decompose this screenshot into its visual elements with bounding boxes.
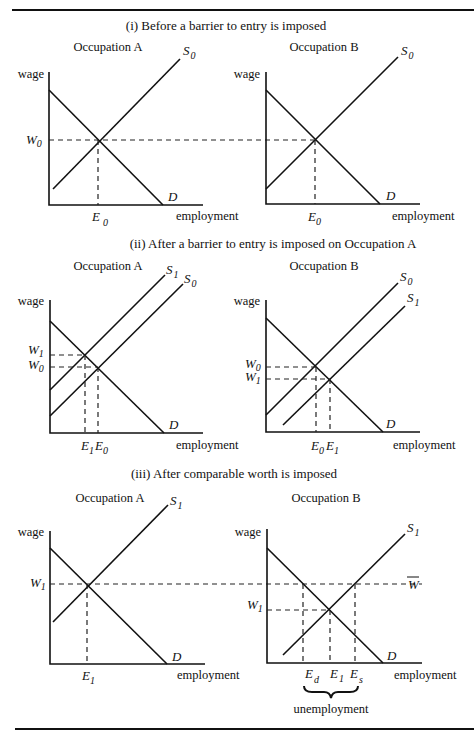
supply-curve-s0	[266, 283, 398, 415]
x-axis-label: employment	[176, 209, 239, 223]
panel-ii-graph-b: Occupation B wage S0 S1 D W0 W1 E0 E1 em…	[234, 259, 456, 456]
e0-label: E0	[94, 438, 108, 456]
w0-label: W0	[26, 132, 42, 149]
supply-curve-s1	[53, 505, 168, 622]
supply-curve-s1	[283, 306, 405, 425]
wbar-label: W	[408, 577, 420, 592]
e1-label: E1	[81, 668, 95, 686]
panel-iii-graph-a: Occupation A wage S1 D W1 E1 employment	[18, 491, 422, 686]
axes	[267, 529, 422, 663]
occupation-a-label: Occupation A	[75, 491, 144, 505]
w1-label: W1	[247, 597, 263, 614]
occupation-b-label: Occupation B	[291, 491, 360, 505]
d-label: D	[167, 189, 178, 204]
y-axis-label: wage	[234, 294, 261, 308]
s1-label: S1	[170, 493, 183, 511]
d-label: D	[168, 417, 179, 432]
e1-label: E1	[80, 438, 94, 456]
x-axis-label: employment	[393, 438, 456, 452]
panel-i: (i) Before a barrier to entry is imposed…	[18, 18, 455, 228]
d-label: D	[385, 188, 396, 203]
supply-curve-s1	[50, 275, 165, 390]
demand-curve	[49, 90, 163, 205]
x-axis-label: employment	[392, 209, 455, 223]
x-axis-label: employment	[177, 668, 240, 682]
s0-label: S0	[400, 269, 413, 287]
panel-ii-graph-a: Occupation A wage S1 S0 D W1 W0 E1 E0 em…	[18, 259, 239, 456]
y-axis-label: wage	[18, 67, 45, 81]
panel-iii-graph-b: Occupation B wage S1 D W W1 Ed E1 Es emp…	[235, 491, 457, 716]
demand-curve	[266, 318, 383, 432]
e1-label: E1	[329, 666, 344, 684]
occupation-a-label: Occupation A	[73, 259, 142, 273]
unemployment-label: unemployment	[294, 702, 370, 716]
s0-label: S0	[184, 271, 197, 289]
supply-curve-s0	[266, 57, 398, 189]
panel-i-title: (i) Before a barrier to entry is imposed	[126, 18, 327, 33]
s1-label: S1	[407, 290, 420, 308]
x-axis-label: employment	[394, 668, 457, 682]
panel-ii-title: (ii) After a barrier to entry is imposed…	[130, 236, 417, 251]
demand-curve	[50, 321, 164, 433]
e0-label: E0	[307, 209, 321, 227]
panel-i-graph-a: Occupation A wage S0 D W0 E0 employment	[18, 40, 314, 228]
occupation-a-label: Occupation A	[73, 40, 142, 54]
demand-curve	[267, 548, 383, 663]
x-axis-label: employment	[176, 438, 239, 452]
ed-label: Ed	[304, 666, 320, 685]
occupation-b-label: Occupation B	[289, 259, 358, 273]
y-axis-label: wage	[18, 294, 45, 308]
panel-iii-title: (iii) After comparable worth is imposed	[131, 466, 338, 481]
w0-label: W0	[28, 357, 44, 374]
s0-label: S0	[401, 43, 414, 61]
panel-ii: (ii) After a barrier to entry is imposed…	[18, 236, 456, 456]
panel-i-graph-b: Occupation B wage S0 D E0 employment	[234, 40, 455, 227]
e0-label: E0	[310, 438, 324, 456]
panel-iii: (iii) After comparable worth is imposed …	[18, 466, 457, 716]
occupation-b-label: Occupation B	[289, 40, 358, 54]
y-axis-label: wage	[235, 525, 262, 539]
e1-label: E1	[325, 438, 339, 456]
supply-curve-s0	[53, 59, 180, 189]
d-label: D	[385, 416, 396, 431]
es-label: Es	[349, 666, 363, 685]
comparable-worth-figure: (i) Before a barrier to entry is imposed…	[0, 0, 474, 735]
d-label: D	[386, 648, 397, 663]
s1-label: S1	[166, 262, 179, 280]
y-axis-label: wage	[234, 67, 261, 81]
s0-label: S0	[183, 43, 196, 61]
axes	[49, 72, 203, 205]
y-axis-label: wage	[18, 525, 45, 539]
axes	[266, 72, 420, 204]
w1-label: W1	[30, 575, 46, 592]
axes	[50, 531, 205, 664]
s1-label: S1	[407, 520, 420, 538]
demand-curve	[266, 90, 380, 204]
supply-curve-s0	[50, 284, 183, 416]
unemployment-brace-icon	[304, 686, 358, 698]
supply-curve-s1	[283, 534, 405, 655]
d-label: D	[171, 649, 182, 664]
e0-label: E0	[91, 209, 108, 228]
